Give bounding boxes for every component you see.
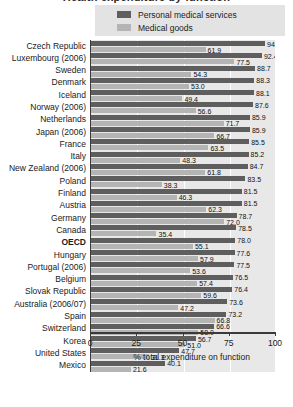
bars-container: 94.161.992.477.588.754.388.353.088.149.4… — [90, 40, 275, 372]
bar-value-personal-medical-services: 78.7 — [239, 213, 253, 220]
bar-personal-medical-services — [91, 53, 262, 58]
bar-value-personal-medical-services: 77.6 — [237, 250, 251, 257]
bar-value-personal-medical-services: 84.7 — [250, 163, 264, 170]
bar-personal-medical-services — [91, 78, 254, 83]
bar-medical-goods — [91, 96, 182, 101]
x-tick-100 — [275, 332, 276, 336]
bar-personal-medical-services — [91, 127, 250, 132]
bar-personal-medical-services — [91, 287, 232, 292]
bar-personal-medical-services — [91, 152, 249, 157]
bar-personal-medical-services — [91, 201, 242, 206]
category-label: Hungary — [54, 251, 86, 260]
bar-medical-goods — [91, 256, 198, 261]
bar-value-personal-medical-services: 88.3 — [256, 77, 270, 84]
bar-value-personal-medical-services: 94.1 — [267, 41, 275, 48]
bar-medical-goods — [91, 121, 224, 126]
legend-swatch-icon-personal-medical-services — [117, 11, 131, 18]
bar-personal-medical-services — [91, 250, 235, 255]
category-label: Poland — [60, 177, 86, 186]
bar-value-personal-medical-services: 92.4 — [264, 53, 275, 60]
bar-value-personal-medical-services: 88.7 — [257, 65, 271, 72]
category-axis-labels: Czech RepublicLuxembourg (2006)SwedenDen… — [0, 40, 88, 372]
bar-personal-medical-services — [91, 41, 265, 46]
bar-personal-medical-services — [91, 312, 226, 317]
category-label: Spain — [64, 312, 86, 321]
bar-value-personal-medical-services: 85.9 — [252, 114, 266, 121]
bar-personal-medical-services — [91, 262, 234, 267]
bar-personal-medical-services — [91, 139, 249, 144]
bar-personal-medical-services — [91, 66, 255, 71]
bar-personal-medical-services — [91, 115, 250, 120]
bar-medical-goods — [91, 84, 189, 89]
plot-wrap: 94.161.992.477.588.754.388.353.088.149.4… — [90, 40, 275, 372]
bar-medical-goods — [91, 170, 205, 175]
category-label: Denmark — [52, 78, 86, 87]
bar-value-personal-medical-services: 81.5 — [244, 200, 258, 207]
bar-value-personal-medical-services: 66.6 — [216, 323, 230, 330]
category-label: Belgium — [55, 275, 86, 284]
legend-item-medical-goods: Medical goods — [117, 21, 285, 34]
category-label: OECD — [61, 238, 86, 247]
category-label: New Zealand (2006) — [9, 164, 86, 173]
chart-title: Health expenditure by function — [0, 0, 293, 3]
legend-label-medical-goods: Medical goods — [138, 23, 193, 33]
bar-personal-medical-services — [91, 102, 253, 107]
bar-medical-goods — [91, 244, 193, 249]
bar-personal-medical-services — [91, 225, 236, 230]
bar-personal-medical-services — [91, 176, 245, 181]
bar-personal-medical-services — [91, 213, 237, 218]
category-label: Switzerland — [42, 324, 86, 333]
category-label: Finland — [58, 189, 86, 198]
category-label: Norway (2006) — [30, 103, 86, 112]
category-label: France — [60, 140, 86, 149]
bar-value-personal-medical-services: 87.6 — [255, 102, 269, 109]
category-label: Germany — [51, 214, 86, 223]
bar-medical-goods — [91, 158, 180, 163]
bar-personal-medical-services — [91, 189, 242, 194]
bar-personal-medical-services — [91, 299, 227, 304]
bar-value-personal-medical-services: 85.2 — [251, 151, 265, 158]
bar-value-personal-medical-services: 73.6 — [229, 299, 243, 306]
bar-value-personal-medical-services: 76.5 — [235, 274, 249, 281]
category-label: Czech Republic — [26, 42, 86, 51]
bar-medical-goods — [91, 231, 156, 236]
category-label: Canada — [56, 226, 86, 235]
x-tick-75 — [229, 332, 230, 336]
x-tick-label: 0 — [88, 338, 93, 348]
bar-medical-goods — [91, 318, 215, 323]
x-axis-title: % total expenditure on function — [90, 352, 293, 362]
bar-value-personal-medical-services: 78.5 — [238, 225, 252, 232]
bar-personal-medical-services — [91, 238, 235, 243]
category-label: Australia (2006/07) — [14, 300, 86, 309]
bar-medical-goods — [91, 145, 208, 150]
bar-personal-medical-services — [91, 90, 254, 95]
bar-value-personal-medical-services: 83.5 — [247, 176, 261, 183]
bar-value-personal-medical-services: 76.4 — [234, 286, 248, 293]
bar-medical-goods — [91, 281, 197, 286]
bar-medical-goods — [91, 268, 190, 273]
bar-medical-goods — [91, 108, 196, 113]
bar-value-personal-medical-services: 81.5 — [244, 188, 258, 195]
category-label: Iceland — [59, 91, 86, 100]
category-label: Luxembourg (2006) — [12, 54, 86, 63]
category-label: Italy — [70, 152, 86, 161]
bar-value-personal-medical-services: 78.0 — [237, 237, 251, 244]
bar-medical-goods — [91, 367, 131, 372]
legend-item-personal-medical-services: Personal medical services — [117, 8, 285, 21]
bar-personal-medical-services — [91, 324, 214, 329]
bar-personal-medical-services — [91, 164, 248, 169]
category-label: Portugal (2006) — [27, 263, 86, 272]
category-label: Sweden — [55, 66, 86, 75]
legend-label-personal-medical-services: Personal medical services — [138, 10, 237, 20]
bar-value-personal-medical-services: 88.1 — [256, 90, 270, 97]
category-label: Japan (2006) — [36, 128, 86, 137]
bar-medical-goods — [91, 182, 162, 187]
x-tick-25 — [136, 332, 137, 336]
bar-medical-goods — [91, 59, 234, 64]
bar-medical-goods — [91, 133, 214, 138]
bar-medical-goods — [91, 293, 201, 298]
x-tick-label: 100 — [268, 338, 282, 348]
bar-medical-goods — [91, 47, 206, 52]
bar-medical-goods — [91, 219, 224, 224]
bar-personal-medical-services — [91, 275, 233, 280]
